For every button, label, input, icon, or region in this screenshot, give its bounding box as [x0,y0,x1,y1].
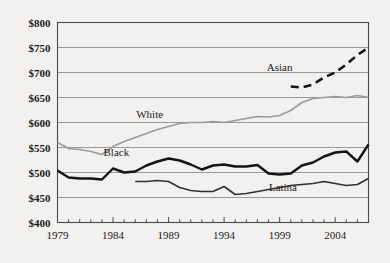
y-tick-label: $750 [29,42,52,54]
x-tick-label: 1979 [47,229,70,241]
y-tick-label: $650 [29,92,52,104]
x-tick-label: 1984 [102,229,125,241]
series-line-latina [135,179,368,195]
y-tick-label: $800 [29,17,52,29]
y-tick-label: $550 [29,142,52,154]
y-tick-label: $450 [29,192,52,204]
chart-container: $800$750$700$650$600$550$500$450$400 197… [0,0,390,263]
series-label-latina: Latina [269,181,297,193]
series-line-asian [291,48,369,88]
gridlines-group [58,48,369,198]
series-label-asian: Asian [267,61,293,73]
x-tick-label: 1994 [213,229,236,241]
y-axis-tick-labels: $800$750$700$650$600$550$500$450$400 [29,17,52,229]
x-tick-label: 2004 [324,229,347,241]
series-label-black: Black [104,146,130,158]
y-tick-label: $400 [29,217,52,229]
line-chart: $800$750$700$650$600$550$500$450$400 197… [0,0,390,263]
x-axis-minor-ticks [58,217,369,223]
y-tick-label: $700 [29,67,52,79]
y-tick-label: $600 [29,117,52,129]
x-tick-label: 1999 [269,229,292,241]
x-axis-tick-labels: 197919841989199419992004 [47,229,347,241]
x-tick-label: 1989 [158,229,181,241]
series-label-white: White [136,108,163,120]
y-tick-label: $500 [29,167,52,179]
